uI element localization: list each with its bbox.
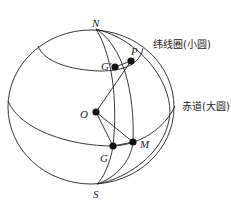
point-g <box>109 142 116 149</box>
equator <box>8 101 175 146</box>
label-g-prime: G' <box>101 60 112 72</box>
label-g: G <box>100 152 108 164</box>
sphere-outline <box>8 30 174 184</box>
point-p <box>127 57 134 64</box>
sphere-diagram: N S O P G' G M 纬线圈(小圆) 赤道(大圆) <box>0 0 231 204</box>
label-n: N <box>91 17 100 29</box>
label-s: S <box>93 188 99 200</box>
label-p: P <box>130 45 138 57</box>
label-o: O <box>80 108 88 120</box>
label-latitude-circle: 纬线圈(小圆) <box>153 38 211 50</box>
segment-o-g <box>96 112 113 146</box>
label-equator: 赤道(大圆) <box>182 100 230 112</box>
point-m <box>129 138 136 145</box>
label-m: M <box>139 138 150 150</box>
point-o <box>92 108 99 115</box>
point-g-prime <box>111 63 118 70</box>
